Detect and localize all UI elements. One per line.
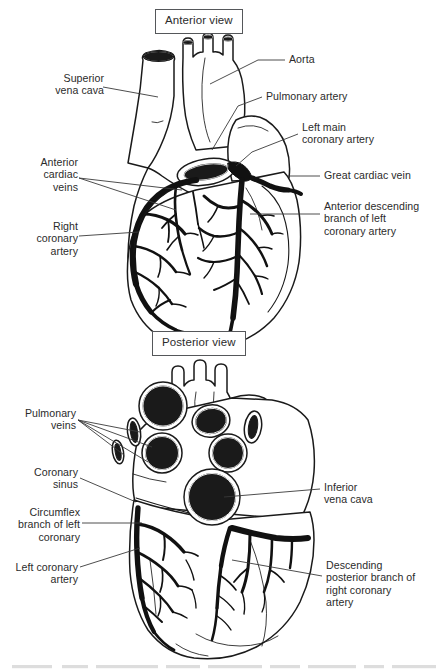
label-right-coronary-artery: Right coronary artery xyxy=(6,220,78,257)
leader-pulmonary-veins-c xyxy=(78,420,124,455)
pulmonary-vein-ostium-1 xyxy=(139,382,187,430)
label-coronary-sinus: Coronary sinus xyxy=(4,466,78,491)
label-left-coronary-artery: Left coronary artery xyxy=(2,561,78,586)
label-superior-vena-cava: Superior vena cava xyxy=(10,72,104,97)
label-anterior-cardiac-veins: Anterior cardiac veins xyxy=(8,156,78,193)
cropped-caption-hint xyxy=(12,665,436,668)
label-descending-posterior-branch: Descending posterior branch of right cor… xyxy=(326,559,446,609)
label-pulmonary-artery: Pulmonary artery xyxy=(266,90,436,102)
label-inferior-vena-cava: Inferior vena cava xyxy=(324,481,442,506)
pulmonary-vein-ostium-4 xyxy=(209,434,247,472)
anterior-heart-drawing xyxy=(127,33,301,349)
heart-anatomy-figure: .out { fill:#ffffff; stroke:#1a1a1a; str… xyxy=(0,0,446,670)
inferior-vena-cava-ostium xyxy=(184,469,240,525)
label-anterior-descending-branch: Anterior descending branch of left coron… xyxy=(324,200,446,237)
label-left-main-coronary-artery: Left main coronary artery xyxy=(302,121,444,146)
posterior-heart-drawing xyxy=(110,360,314,659)
label-great-cardiac-vein: Great cardiac vein xyxy=(324,169,446,181)
pulmonary-vein-ostium-3 xyxy=(142,433,182,473)
label-pulmonary-veins: Pulmonary veins xyxy=(4,407,76,432)
superior-vena-cava-anterior xyxy=(128,51,175,169)
leader-coronary-sinus xyxy=(80,478,136,502)
view-label-posterior: Posterior view xyxy=(152,331,246,356)
view-label-anterior: Anterior view xyxy=(155,9,243,34)
label-aorta: Aorta xyxy=(289,53,409,65)
label-circumflex-branch: Circumflex branch of left coronary xyxy=(2,506,80,543)
